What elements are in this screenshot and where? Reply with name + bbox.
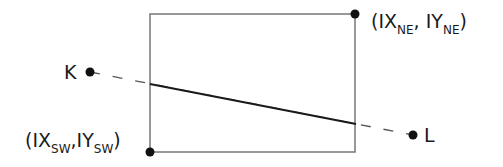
point-l-dot — [409, 131, 418, 140]
clipped-line-segment — [150, 84, 356, 124]
sw-corner-label: (IXSW,IYSW) — [25, 129, 121, 156]
sw-corner-dot — [146, 148, 155, 157]
ne-corner-label: (IXNE, IYNE) — [371, 10, 467, 37]
point-k-dot — [86, 68, 95, 77]
clip-window-rectangle — [150, 14, 355, 152]
point-l-label: L — [424, 124, 435, 146]
point-k-label: K — [64, 61, 77, 83]
ne-corner-dot — [351, 10, 360, 19]
clipping-diagram: K L (IXNE, IYNE) (IXSW,IYSW) — [0, 0, 503, 167]
